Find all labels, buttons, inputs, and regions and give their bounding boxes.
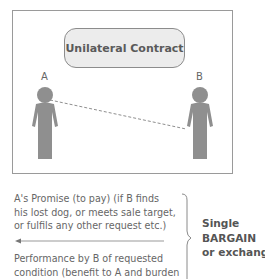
promise-line: his lost dog, or meets sale target, (14, 206, 176, 220)
conclusion-line: BARGAIN (202, 231, 265, 246)
arrow-left-icon (15, 239, 164, 244)
promise-line: A's Promise (to pay) (if B finds (14, 192, 176, 206)
performance-line: Performance by B of requested (14, 252, 179, 266)
conclusion-line: Single (202, 216, 265, 231)
bargain-conclusion: Single BARGAIN or exchange (202, 216, 265, 260)
conclusion-line: or exchange (202, 245, 265, 260)
performance-text: Performance by B of requested condition … (14, 252, 179, 279)
promise-text: A's Promise (to pay) (if B finds his los… (14, 192, 176, 233)
promise-line: or fulfils any other request etc.) (14, 219, 176, 233)
person-b-icon (187, 87, 213, 159)
person-a-icon (32, 87, 58, 159)
performance-line: condition (benefit to A and burden (14, 266, 179, 279)
brace-icon (182, 194, 191, 279)
relation-dashed-line (50, 100, 186, 129)
